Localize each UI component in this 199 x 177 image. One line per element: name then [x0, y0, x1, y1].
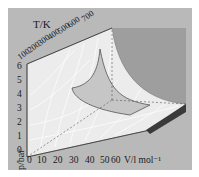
- svg-text:4: 4: [17, 89, 22, 99]
- svg-text:6: 6: [17, 61, 22, 71]
- svg-text:20: 20: [53, 155, 63, 165]
- svg-text:2: 2: [17, 117, 22, 127]
- pvt-surface-figure: T/K 100 200 300 400 500 600 700 6 5 4 3 …: [0, 0, 199, 177]
- svg-text:30: 30: [69, 155, 79, 165]
- v-axis-ticks: 0 10 20 30 40 50 60: [27, 155, 121, 165]
- p-axis-ticks: 6 5 4 3 2 1 0: [17, 61, 22, 155]
- svg-text:700: 700: [79, 8, 95, 24]
- svg-text:10: 10: [37, 155, 47, 165]
- v-axis-label: V/l mol⁻¹: [124, 155, 161, 165]
- svg-text:0: 0: [27, 155, 32, 165]
- t-axis-label: T/K: [33, 18, 51, 30]
- svg-text:1: 1: [17, 131, 22, 141]
- svg-text:5: 5: [17, 75, 22, 85]
- svg-text:60: 60: [111, 155, 121, 165]
- p-axis-label: p/bar: [15, 149, 26, 170]
- svg-text:3: 3: [17, 103, 22, 113]
- svg-text:50: 50: [100, 155, 110, 165]
- svg-text:40: 40: [85, 155, 95, 165]
